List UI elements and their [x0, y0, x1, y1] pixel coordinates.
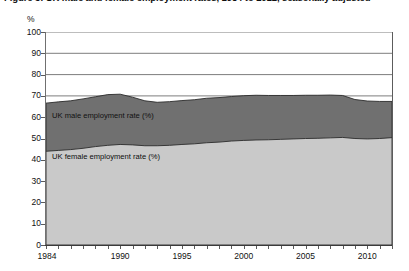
x-tick-mark — [244, 246, 245, 249]
x-tick-mark — [46, 246, 47, 249]
x-tick-mark — [392, 246, 393, 249]
x-tick-mark — [231, 246, 232, 249]
x-tick-mark — [108, 246, 109, 249]
x-tick-label: 2005 — [296, 252, 315, 261]
x-tick-label: 1990 — [111, 252, 130, 261]
plot-area — [46, 32, 392, 245]
x-tick-mark — [194, 246, 195, 249]
x-tick-label: 2010 — [358, 252, 377, 261]
x-tick-mark — [380, 246, 381, 249]
y-tick-mark — [41, 75, 45, 76]
y-tick-mark — [41, 224, 45, 225]
stacked-area-svg — [46, 32, 392, 245]
x-tick-label: 2000 — [234, 252, 253, 261]
x-tick-mark — [71, 246, 72, 249]
x-tick-mark — [318, 246, 319, 249]
y-tick-label: 90 — [15, 49, 41, 58]
x-tick-mark — [207, 246, 208, 249]
y-tick-mark — [41, 96, 45, 97]
male-series-label: UK male employment rate (%) — [52, 111, 154, 120]
x-tick-mark — [355, 246, 356, 249]
female-series-label: UK female employment rate (%) — [52, 152, 160, 161]
y-tick-mark — [41, 202, 45, 203]
y-tick-label: 20 — [15, 198, 41, 207]
y-tick-mark — [41, 117, 45, 118]
chart-title: Figure 3: UK male and female employment … — [4, 0, 404, 4]
y-tick-label: 50 — [15, 134, 41, 143]
x-tick-label: 1984 — [37, 252, 56, 261]
y-tick-label: 80 — [15, 70, 41, 79]
x-tick-mark — [133, 246, 134, 249]
x-tick-mark — [120, 246, 121, 249]
y-tick-label: 100 — [15, 28, 41, 37]
y-tick-label: 70 — [15, 91, 41, 100]
y-tick-label: 60 — [15, 113, 41, 122]
x-tick-mark — [145, 246, 146, 249]
x-tick-mark — [281, 246, 282, 249]
x-tick-mark — [367, 246, 368, 249]
y-tick-label: 0 — [15, 241, 41, 250]
plot-right-border — [392, 32, 393, 246]
y-tick-label: 30 — [15, 177, 41, 186]
y-tick-mark — [41, 245, 45, 246]
x-tick-mark — [219, 246, 220, 249]
y-tick-mark — [41, 32, 45, 33]
y-tick-mark — [41, 53, 45, 54]
x-tick-mark — [58, 246, 59, 249]
y-tick-mark — [41, 181, 45, 182]
x-tick-mark — [306, 246, 307, 249]
x-tick-mark — [170, 246, 171, 249]
y-tick-mark — [41, 160, 45, 161]
x-tick-mark — [95, 246, 96, 249]
y-tick-label: 10 — [15, 219, 41, 228]
y-axis-labels: 1009080706050403020100 — [7, 0, 41, 271]
x-tick-label: 1995 — [172, 252, 191, 261]
x-tick-mark — [83, 246, 84, 249]
x-tick-mark — [330, 246, 331, 249]
y-tick-label: 40 — [15, 155, 41, 164]
x-tick-mark — [182, 246, 183, 249]
y-tick-mark — [41, 139, 45, 140]
employment-rate-area-chart: Figure 3: UK male and female employment … — [0, 0, 409, 271]
x-tick-mark — [268, 246, 269, 249]
x-tick-mark — [293, 246, 294, 249]
x-tick-mark — [157, 246, 158, 249]
x-tick-mark — [256, 246, 257, 249]
x-tick-mark — [343, 246, 344, 249]
